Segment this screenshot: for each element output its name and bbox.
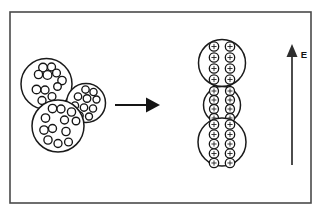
uncharged-droplet-cluster	[21, 59, 106, 153]
charged-particle	[225, 53, 234, 62]
charged-particle	[226, 96, 235, 105]
inner-particle	[48, 93, 56, 101]
charged-particle	[209, 120, 218, 129]
chain-droplet-bottom-outline	[198, 118, 246, 166]
charged-particle	[209, 53, 218, 62]
transformation-arrow	[115, 98, 160, 113]
field-arrow-head	[287, 44, 298, 57]
inner-particle	[61, 116, 69, 124]
inner-particle	[90, 88, 97, 95]
charged-particle	[225, 139, 234, 148]
inner-particle	[80, 104, 87, 111]
chain-droplet-bottom	[198, 118, 246, 168]
inner-particle	[54, 140, 62, 148]
charged-particle	[209, 149, 218, 158]
charged-particle	[225, 64, 234, 73]
charged-particle	[209, 75, 218, 84]
inner-particle	[49, 125, 57, 133]
chain-droplet-top	[199, 40, 246, 87]
inner-particle	[65, 138, 73, 146]
inner-particle	[82, 86, 89, 93]
inner-particle	[72, 117, 80, 125]
droplet-lower-left	[32, 100, 84, 152]
inner-particle	[67, 108, 75, 116]
inner-particle	[43, 71, 52, 80]
charged-particle	[209, 158, 218, 167]
electric-field-arrow: E	[287, 44, 308, 165]
inner-particle	[32, 85, 41, 94]
charged-particle	[209, 64, 218, 73]
charged-particle	[209, 42, 218, 51]
charged-particle	[225, 149, 234, 158]
figure-root: E	[0, 0, 327, 216]
field-label-E: E	[301, 49, 307, 60]
inner-particle	[34, 70, 42, 78]
inner-particle	[93, 96, 100, 103]
inner-particle	[74, 93, 81, 100]
charged-particle	[225, 75, 234, 84]
charged-particle	[226, 105, 235, 114]
inner-particle	[40, 126, 48, 134]
charged-particle	[225, 120, 234, 129]
inner-particle	[57, 105, 65, 113]
arrow-head	[146, 98, 160, 113]
charged-particle	[210, 105, 219, 114]
inner-particle	[41, 86, 49, 94]
inner-particle	[54, 83, 62, 91]
inner-particle	[62, 127, 70, 135]
charged-droplet-chain	[198, 40, 246, 168]
inner-particle	[89, 105, 96, 112]
droplet-alignment-diagram: E	[0, 0, 327, 216]
inner-particle	[53, 69, 61, 77]
charged-particle	[210, 96, 219, 105]
charged-particle	[225, 158, 234, 167]
inner-particle	[44, 136, 52, 144]
inner-particle	[83, 95, 91, 103]
inner-particle	[41, 114, 49, 122]
inner-particle	[48, 104, 56, 112]
charged-particle	[209, 139, 218, 148]
charged-particle	[210, 87, 219, 96]
charged-particle	[209, 130, 218, 139]
chain-droplet-top-outline	[199, 40, 246, 87]
charged-particle	[225, 42, 234, 51]
charged-particle	[226, 87, 235, 96]
charged-particle	[225, 130, 234, 139]
inner-particle	[86, 113, 93, 120]
